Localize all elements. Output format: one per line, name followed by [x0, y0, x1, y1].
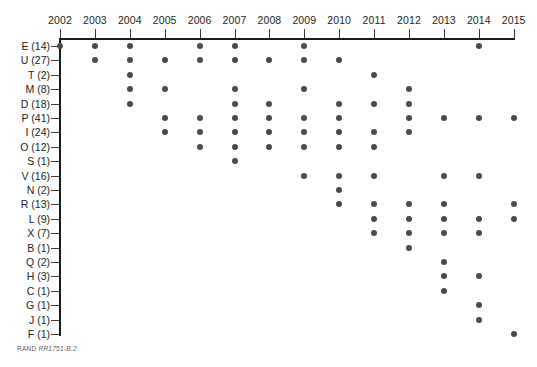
- x-axis-tick: [95, 29, 96, 38]
- data-point: [232, 129, 238, 135]
- data-point: [266, 57, 272, 63]
- y-axis-tick: [51, 276, 59, 277]
- data-point: [92, 43, 98, 49]
- y-axis-label-row: C (1): [0, 286, 50, 296]
- data-point: [266, 115, 272, 121]
- y-axis-label-row: N (2): [0, 185, 50, 195]
- data-point: [371, 72, 377, 78]
- data-point: [301, 43, 307, 49]
- y-axis-tick: [51, 132, 59, 133]
- y-axis-tick: [51, 334, 59, 335]
- y-axis-label-row: D (18): [0, 99, 50, 109]
- y-axis-tick-label: H (3): [2, 271, 50, 281]
- data-point: [301, 86, 307, 92]
- data-point: [476, 230, 482, 236]
- y-axis-label-row: S (1): [0, 156, 50, 166]
- data-point: [336, 173, 342, 179]
- y-axis-label-row: E (14): [0, 41, 50, 51]
- data-point: [441, 230, 447, 236]
- data-point: [406, 86, 412, 92]
- data-point: [301, 57, 307, 63]
- x-axis-tick: [339, 29, 340, 38]
- y-axis-tick: [51, 161, 59, 162]
- y-axis-tick-label: N (2): [2, 185, 50, 195]
- data-point: [476, 273, 482, 279]
- data-point: [301, 144, 307, 150]
- y-axis-label-row: I (24): [0, 127, 50, 137]
- x-axis-tick: [479, 29, 480, 38]
- data-point: [371, 101, 377, 107]
- y-axis-tick-label: Q (2): [2, 257, 50, 267]
- data-point: [127, 86, 133, 92]
- x-axis-tick: [409, 29, 410, 38]
- data-point: [336, 101, 342, 107]
- data-point: [232, 158, 238, 164]
- x-axis-tick: [374, 29, 375, 38]
- data-point: [511, 331, 517, 337]
- y-axis-line: [59, 38, 61, 336]
- data-point: [266, 144, 272, 150]
- source-note-figure-id: RR1751-B.2: [38, 345, 76, 352]
- x-axis-tick: [165, 29, 166, 38]
- data-point: [232, 86, 238, 92]
- data-point: [232, 115, 238, 121]
- data-point: [441, 115, 447, 121]
- data-point: [511, 201, 517, 207]
- data-point: [371, 144, 377, 150]
- data-point: [162, 129, 168, 135]
- data-point: [57, 43, 63, 49]
- data-point: [232, 57, 238, 63]
- source-note: RAND RR1751-B.2: [17, 345, 77, 352]
- data-point: [441, 288, 447, 294]
- data-point: [441, 259, 447, 265]
- data-point: [232, 144, 238, 150]
- y-axis-tick: [51, 118, 59, 119]
- data-point: [406, 101, 412, 107]
- data-point: [476, 173, 482, 179]
- data-point: [441, 273, 447, 279]
- y-axis-tick: [51, 233, 59, 234]
- y-axis-tick-label: U (27): [2, 55, 50, 65]
- data-point: [476, 43, 482, 49]
- dot-plot: 2002200320042005200620072008200920102011…: [0, 0, 537, 367]
- x-axis-tick: [130, 29, 131, 38]
- y-axis-label-row: Q (2): [0, 257, 50, 267]
- data-point: [406, 115, 412, 121]
- data-point: [336, 57, 342, 63]
- data-point: [476, 115, 482, 121]
- data-point: [266, 101, 272, 107]
- data-point: [232, 101, 238, 107]
- data-point: [127, 72, 133, 78]
- x-axis-tick: [200, 29, 201, 38]
- data-point: [336, 187, 342, 193]
- data-point: [197, 144, 203, 150]
- y-axis-tick: [51, 60, 59, 61]
- data-point: [476, 216, 482, 222]
- y-axis-tick: [51, 291, 59, 292]
- data-point: [441, 216, 447, 222]
- y-axis-tick-label: S (1): [2, 156, 50, 166]
- y-axis-tick: [51, 75, 59, 76]
- y-axis-tick: [51, 176, 59, 177]
- y-axis-tick: [51, 204, 59, 205]
- y-axis-tick: [51, 89, 59, 90]
- data-point: [127, 101, 133, 107]
- y-axis-label-row: V (16): [0, 171, 50, 181]
- y-axis-tick: [51, 262, 59, 263]
- y-axis-label-row: X (7): [0, 228, 50, 238]
- data-point: [127, 57, 133, 63]
- data-point: [162, 86, 168, 92]
- data-point: [371, 129, 377, 135]
- y-axis-tick-label: B (1): [2, 243, 50, 253]
- y-axis-label-row: H (3): [0, 271, 50, 281]
- data-point: [406, 230, 412, 236]
- y-axis-tick-label: P (41): [2, 113, 50, 123]
- data-point: [336, 129, 342, 135]
- y-axis-tick-label: L (9): [2, 214, 50, 224]
- y-axis-tick-label: D (18): [2, 99, 50, 109]
- data-point: [336, 144, 342, 150]
- data-point: [197, 57, 203, 63]
- data-point: [476, 317, 482, 323]
- y-axis-label-row: P (41): [0, 113, 50, 123]
- data-point: [371, 173, 377, 179]
